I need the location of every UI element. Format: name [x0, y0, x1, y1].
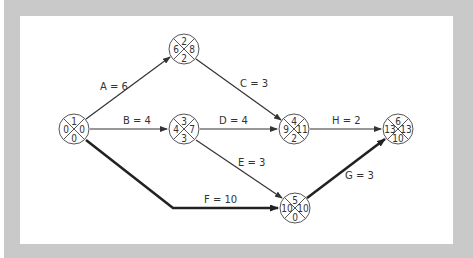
edge-g-label: G = 3	[345, 170, 374, 181]
node-3: 3 4 7 3	[169, 114, 199, 144]
node-4-right: 11	[296, 124, 307, 135]
edge-b-label: B = 4	[123, 115, 151, 126]
edge-e: E = 3	[196, 140, 282, 198]
node-2: 2 6 8 2	[169, 34, 199, 64]
edge-f-label: F = 10	[204, 194, 237, 205]
node-2-right: 8	[189, 44, 195, 55]
node-5-right: 10	[297, 203, 309, 214]
edge-a-label: A = 6	[100, 81, 128, 92]
node-3-top: 3	[181, 116, 187, 127]
node-3-right: 7	[189, 124, 195, 135]
node-3-bottom: 3	[181, 133, 187, 144]
node-6-bottom: 10	[392, 133, 404, 144]
node-2-bottom: 2	[181, 53, 187, 64]
edge-h-label: H = 2	[332, 115, 361, 126]
edge-c-label: C = 3	[240, 78, 268, 89]
node-3-left: 4	[173, 124, 179, 135]
node-4: 4 9 11 2	[279, 114, 309, 144]
node-4-bottom: 2	[291, 133, 297, 144]
node-1-bottom: 0	[71, 133, 77, 144]
network-diagram: A = 6 B = 4 C = 3 D = 4 E = 3 F = 10 H =…	[0, 0, 473, 258]
node-1-top: 1	[71, 116, 77, 127]
edge-e-label: E = 3	[238, 157, 265, 168]
node-2-top: 2	[181, 36, 187, 47]
edge-h: H = 2	[310, 115, 381, 129]
node-6: 6 13 13 10	[383, 114, 413, 144]
node-4-left: 9	[283, 124, 289, 135]
edge-f-critical: F = 10	[86, 140, 278, 208]
edge-d-label: D = 4	[219, 115, 248, 126]
node-1-right: 0	[79, 124, 85, 135]
edge-b: B = 4	[90, 115, 167, 129]
node-1-left: 0	[63, 124, 69, 135]
node-2-left: 6	[173, 44, 179, 55]
edge-d: D = 4	[200, 115, 277, 129]
node-5: 5 10 10 0	[280, 193, 310, 223]
node-5-bottom: 0	[292, 212, 298, 223]
edge-g-critical: G = 3	[307, 139, 385, 198]
node-1: 1 0 0 0	[59, 114, 89, 144]
edge-a: A = 6	[86, 57, 170, 119]
edge-c: C = 3	[196, 59, 281, 120]
